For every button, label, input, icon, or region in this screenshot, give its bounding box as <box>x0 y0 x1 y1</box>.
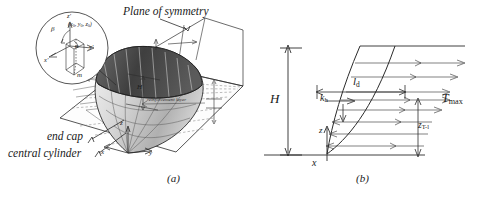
label-kh: kh <box>320 93 328 104</box>
label-ztl: zT-l <box>418 121 429 131</box>
label-inset-axis-zp: z' <box>67 13 71 20</box>
label-central-cylinder: central cylinder <box>8 148 81 160</box>
caption-b: (b) <box>356 172 369 184</box>
label-tmax-sub: max <box>449 97 463 106</box>
panel-b: H ld kh Tmax zT-l z x (b) <box>250 0 478 197</box>
plane-of-symmetry-leader <box>160 19 190 31</box>
label-height-b: H <box>270 92 279 105</box>
label-tmax-main: T <box>442 91 449 105</box>
label-inset-point: (x0, y0, z0) <box>68 21 92 28</box>
label-ld-sub: d <box>356 80 360 89</box>
label-inset-axis-yp: y' <box>89 44 93 51</box>
label-inset-axis-xp: x' <box>44 57 48 64</box>
panel-a-drawing <box>0 0 250 197</box>
label-angle-beta: β <box>51 26 55 33</box>
label-ld: ld <box>353 76 360 88</box>
figure-container: Plane of symmetry end cap central cylind… <box>0 0 478 197</box>
inset-point-z-sub: 0 <box>88 23 90 28</box>
label-plane-of-symmetry: Plane of symmetry <box>123 6 209 18</box>
label-axis-y-a: y <box>149 150 152 157</box>
label-tmax: Tmax <box>442 92 463 106</box>
label-axis-x-a: x <box>101 149 104 156</box>
label-kh-sub: h <box>324 96 327 103</box>
inset-point-y-sub: 0 <box>80 23 82 28</box>
label-angle-alpha: α <box>75 43 78 49</box>
caption-a: (a) <box>167 172 180 184</box>
label-axis-z-a: z <box>120 120 123 127</box>
label-end-cap: end cap <box>47 131 83 143</box>
label-reinforcement-layer: reinforcement layer <box>147 97 186 102</box>
height-dimension-b <box>280 45 302 156</box>
label-ztl-sub: T-l <box>422 123 429 130</box>
panel-a: Plane of symmetry end cap central cylind… <box>0 0 250 197</box>
label-height-a: H <box>137 84 142 91</box>
ld-dimension <box>316 85 406 99</box>
inset-point-x-sub: 0 <box>73 23 75 28</box>
label-axis-z-b: z <box>319 126 323 135</box>
label-axis-x-b: x <box>312 158 316 168</box>
label-axis-m-a: m <box>77 72 82 79</box>
axis-z-group-b <box>324 126 330 154</box>
